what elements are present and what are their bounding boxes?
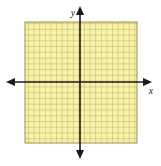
y-axis-label: y [70, 7, 76, 18]
coordinate-grid-figure: y x [0, 0, 161, 166]
y-axis-down-arrow-icon [76, 150, 84, 159]
y-axis-up-arrow-icon [76, 6, 84, 15]
x-axis-left-arrow-icon [6, 78, 15, 86]
x-axis-label: x [148, 85, 154, 96]
coordinate-plane-svg: y x [0, 0, 161, 166]
